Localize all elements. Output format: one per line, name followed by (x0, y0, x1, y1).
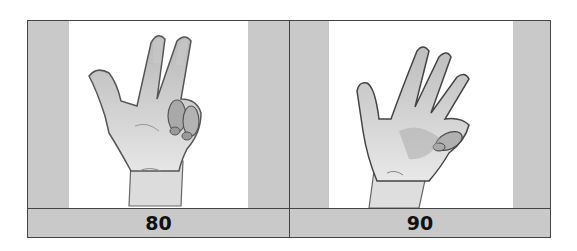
number-label-80: 80 (28, 209, 289, 238)
hand-sign-90-image (329, 21, 513, 208)
number-sign-table: 80 90 (27, 20, 551, 238)
column-divider (289, 21, 290, 237)
hand-sign-90-icon (329, 21, 513, 208)
number-label-90: 90 (290, 209, 550, 238)
hand-sign-80-image (69, 21, 248, 208)
hand-sign-80-icon (69, 21, 248, 208)
